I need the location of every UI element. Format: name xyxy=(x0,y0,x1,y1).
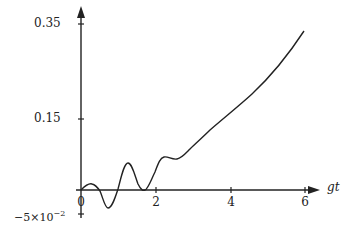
x-axis-arrow-icon xyxy=(308,186,320,194)
x-tick-label-4: 4 xyxy=(227,195,235,209)
y-tick-label-bottom-exp: −2 xyxy=(53,209,65,218)
y-tick-label-top: 0.35 xyxy=(34,16,61,30)
y-tick-label-bottom: −5×10−2 xyxy=(14,209,65,224)
data-curve xyxy=(81,31,304,208)
x-tick-label-0: 0 xyxy=(77,195,85,209)
x-tick-label-6: 6 xyxy=(301,195,309,209)
x-tick-label-2: 2 xyxy=(152,195,160,209)
y-axis-arrow-icon xyxy=(77,6,85,18)
y-tick-label-mid: 0.15 xyxy=(34,111,61,125)
y-tick-label-bottom-base: −5×10 xyxy=(14,211,53,224)
x-axis-label: gt xyxy=(327,180,340,194)
